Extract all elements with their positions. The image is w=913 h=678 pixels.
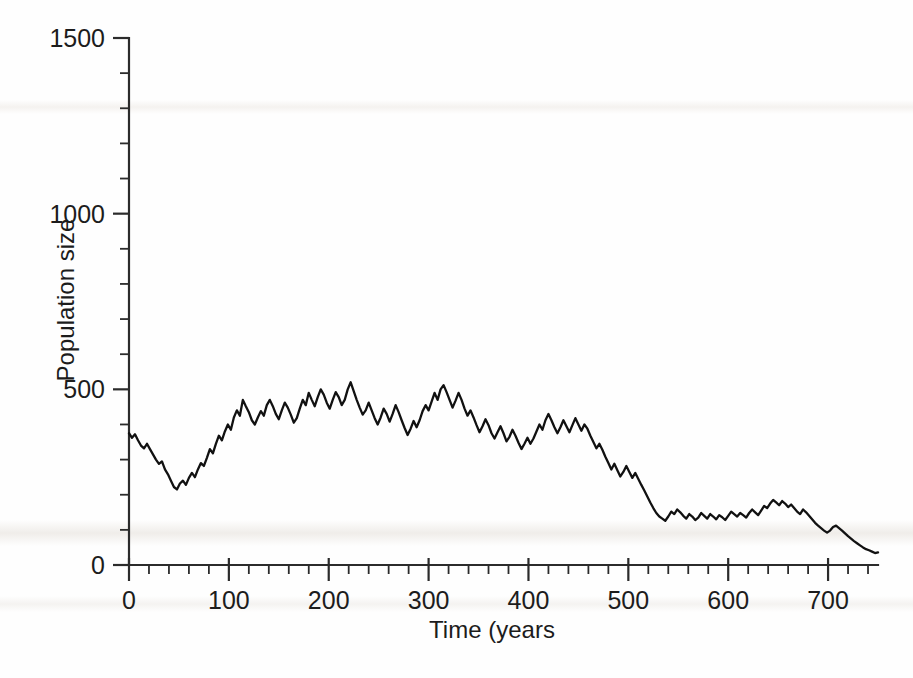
x-axis-tick-label: 500 xyxy=(607,586,649,614)
x-axis-title: Time (years xyxy=(429,616,555,643)
tick-labels-layer: 0500100015000100200300400500600700 xyxy=(49,24,849,614)
axes-layer xyxy=(129,38,878,565)
x-axis-tick-label: 100 xyxy=(208,586,250,614)
ticks-layer xyxy=(113,38,868,581)
x-axis-tick-label: 300 xyxy=(408,586,450,614)
y-axis-title: Population size xyxy=(52,219,79,382)
y-axis-tick-label: 0 xyxy=(91,551,105,579)
line-chart: 0500100015000100200300400500600700 Popul… xyxy=(0,0,913,678)
data-series-line xyxy=(129,382,878,553)
x-axis-tick-label: 700 xyxy=(807,586,849,614)
x-axis-tick-label: 0 xyxy=(122,586,136,614)
y-axis-tick-label: 1500 xyxy=(49,24,105,52)
x-axis-tick-label: 400 xyxy=(508,586,550,614)
x-axis-tick-label: 600 xyxy=(707,586,749,614)
data-series-layer xyxy=(129,382,878,553)
population-trajectory-figure: 0500100015000100200300400500600700 Popul… xyxy=(0,0,913,678)
x-axis-tick-label: 200 xyxy=(308,586,350,614)
